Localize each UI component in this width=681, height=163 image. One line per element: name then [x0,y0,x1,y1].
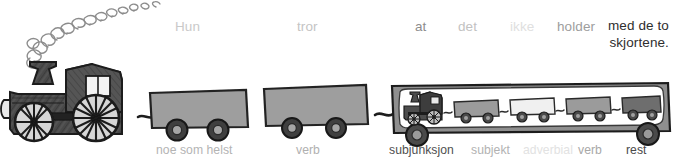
sentence-word: at [415,19,426,34]
final-phrase-line-2: skjortene. [608,35,669,52]
function-label: noe som helst [156,143,233,157]
figure-canvas: Hun tror at det ikke holder med de to sk… [0,0,681,163]
smoke-icon [27,2,160,69]
sentence-word: holder [557,19,595,34]
locomotive [1,62,122,141]
sentence-word: ikke [510,19,534,34]
function-label: rest [626,143,647,157]
locomotive-wheel-front [15,103,53,141]
function-label: subjunksjon [389,143,454,157]
sentence-word: det [458,19,477,34]
function-label: adverbial [523,143,573,157]
sentence-word: tror [297,19,318,34]
function-label: verb [296,143,320,157]
wagon-verb [264,85,368,138]
sentence-word: Hun [175,19,200,34]
final-phrase-line-1: med de to [608,18,669,35]
function-label: subjekt [471,143,510,157]
locomotive-wheel-rear [73,95,119,141]
flatbed-car-with-embedded-train [392,83,670,146]
final-phrase: med de to skjortene. [608,18,669,51]
wagon-noe-som-helst [150,90,248,141]
function-label: verb [578,143,602,157]
